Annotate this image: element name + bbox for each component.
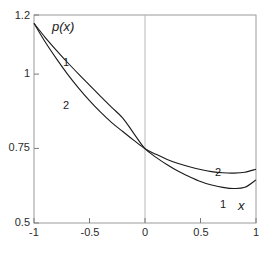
curve-label-1-right: 1 [220, 198, 226, 210]
y-axis-title: p(x) [52, 19, 74, 34]
y-tick-label-2: 1 [2, 67, 30, 79]
y-axis-ticks [34, 15, 39, 223]
x-tick-label-2: 0 [133, 226, 157, 238]
x-tick-label-3: 0.5 [185, 226, 217, 238]
curve-label-2-left: 2 [63, 99, 69, 111]
x-axis-title: x [238, 198, 245, 213]
x-tick-label-0: -1 [22, 226, 46, 238]
y-tick-label-3: 1.2 [2, 9, 30, 21]
y-tick-label-1: 0.75 [2, 141, 30, 153]
curve-label-1-left: 1 [63, 56, 69, 68]
x-tick-label-1: -0.5 [74, 226, 106, 238]
x-tick-label-4: 1 [244, 226, 268, 238]
chart-figure: 0.5 0.75 1 1.2 -1 -0.5 0 0.5 1 p(x) x 1 … [0, 0, 273, 259]
plot-canvas [0, 0, 273, 259]
curve-label-2-right: 2 [215, 166, 221, 178]
x-axis-ticks [34, 218, 256, 223]
